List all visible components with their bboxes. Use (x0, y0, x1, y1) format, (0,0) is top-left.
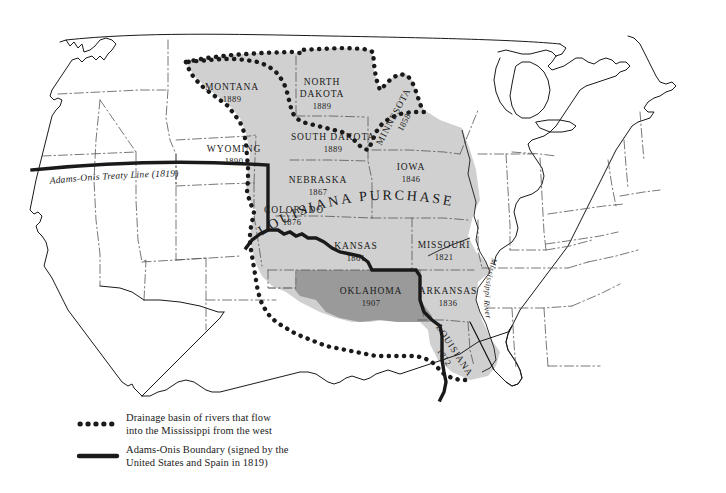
state-year-wyoming: 1890 (225, 156, 244, 166)
west-coast-outline (30, 38, 142, 396)
border-nc-va (588, 250, 638, 262)
border-az-nm (142, 260, 146, 300)
state-year-north-dakota: 1889 (313, 101, 332, 111)
state-year-kansas: 1861 (347, 253, 366, 263)
state-name-oklahoma: OKLAHOMA (340, 286, 403, 296)
state-year-colorado: 1876 (283, 217, 302, 227)
state-year-nebraska: 1867 (309, 187, 328, 197)
state-year-arkansas: 1836 (439, 298, 458, 308)
state-name-arkansas: ARKANSAS (419, 286, 477, 296)
border-wa-or (58, 90, 168, 94)
border-nv-ut-sw (94, 100, 100, 286)
legend-item-adams-onis: Adams-Onis Boundary (signed by the Unite… (79, 444, 289, 469)
map-legend: Drainage basin of rivers that flow into … (79, 412, 289, 469)
border-ga-sc-nc (572, 284, 620, 306)
border-nm-co (176, 256, 240, 260)
border-ma-ct-ri (620, 190, 660, 196)
border-id-mt-wy (166, 40, 176, 186)
border-id-nv-ut (136, 152, 142, 262)
southwest-mexico-border (144, 300, 224, 312)
northern-border (66, 34, 560, 44)
lake-michigan-west-shore (494, 58, 512, 114)
border-or-ca (42, 152, 136, 156)
state-name-montana: MONTANA (205, 82, 259, 92)
state-name-north-dakota-line1: NORTH (304, 77, 341, 87)
state-year-missouri: 1821 (435, 252, 454, 262)
state-name-iowa: IOWA (397, 162, 425, 172)
border-al-ga (544, 308, 548, 366)
border-nh-me (640, 112, 644, 160)
border-vt-nh (624, 140, 628, 188)
state-year-south-dakota: 1889 (324, 144, 343, 154)
legend-drainage-line2: into the Mississippi from the west (126, 425, 272, 436)
state-name-colorado: COLORADO (264, 205, 324, 215)
legend-boundary-line1: Adams-Onis Boundary (signed by the (126, 444, 289, 456)
state-name-nebraska: NEBRASKA (289, 175, 347, 185)
oklahoma-fill-shape (295, 270, 432, 322)
michigan-upper-peninsula (498, 50, 556, 56)
map-canvas: LOUISIANA PURCHASE MONTANA 1889 NORTH DA… (0, 0, 726, 493)
state-year-iowa: 1846 (402, 174, 421, 184)
state-name-south-dakota: SOUTH DAKOTA (291, 132, 375, 142)
legend-item-drainage-basin: Drainage basin of rivers that flow into … (80, 412, 272, 436)
border-il-in (506, 154, 510, 250)
state-name-kansas: KANSAS (334, 241, 377, 251)
mexico-border (142, 312, 224, 396)
state-name-wyoming: WYOMING (207, 144, 261, 154)
border-pa-md (546, 232, 618, 244)
adams-onis-treaty-line-label: Adams-Onis Treaty Line (1819) (48, 168, 179, 185)
state-year-montana: 1889 (223, 94, 242, 104)
border-wy-co (176, 183, 254, 186)
michigan-lower-peninsula (510, 62, 550, 118)
california-south-border (100, 286, 144, 300)
border-nv-ca (100, 100, 136, 152)
border-tn-ms-al (486, 306, 572, 308)
legend-boundary-line2: United States and Spain in 1819) (126, 457, 268, 469)
border-ny-vt-nh (608, 160, 616, 206)
state-year-oklahoma: 1907 (362, 298, 381, 308)
border-va-md-wv (568, 262, 588, 268)
state-name-missouri: MISSOURI (418, 240, 471, 250)
louisiana-purchase-map: LOUISIANA PURCHASE MONTANA 1889 NORTH DA… (0, 0, 726, 493)
adams-onis-treaty-line-label-text: Adams-Onis Treaty Line (1819) (48, 168, 179, 185)
state-name-north-dakota-line2: DAKOTA (300, 89, 345, 99)
new-england-coast (624, 36, 676, 138)
legend-drainage-line1: Drainage basin of rivers that flow (126, 412, 271, 423)
